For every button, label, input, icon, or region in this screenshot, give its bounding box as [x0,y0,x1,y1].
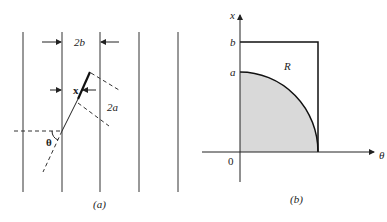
angle-label: θ [46,136,52,148]
region-label: R [283,60,291,72]
x-axis-label: θ [379,149,385,161]
shaded-region [240,72,318,152]
b-tick-label: b [230,36,236,48]
needle-upper [78,72,90,99]
panel-b-caption: (b) [290,193,303,206]
spacing-label: 2b [74,36,86,48]
distance-label: x [73,84,79,96]
needle-top-perpendicular-dashed [91,73,119,90]
panel-b: x θ 0 b a R (b) [202,9,385,206]
origin-label: 0 [228,155,234,167]
needle-mid-perpendicular-dashed [78,103,109,126]
a-tick-label: a [230,66,236,78]
needle-length-label: 2a [107,101,119,113]
parallel-lines [23,32,178,192]
panel-a-caption: (a) [93,198,106,211]
panel-a: 2b x θ 2a (a) [14,32,178,211]
angle-arc [52,131,58,140]
y-axis-label: x [229,9,235,21]
figure: 2b x θ 2a (a) x θ 0 b [0,0,387,222]
needle-lower [62,99,78,131]
